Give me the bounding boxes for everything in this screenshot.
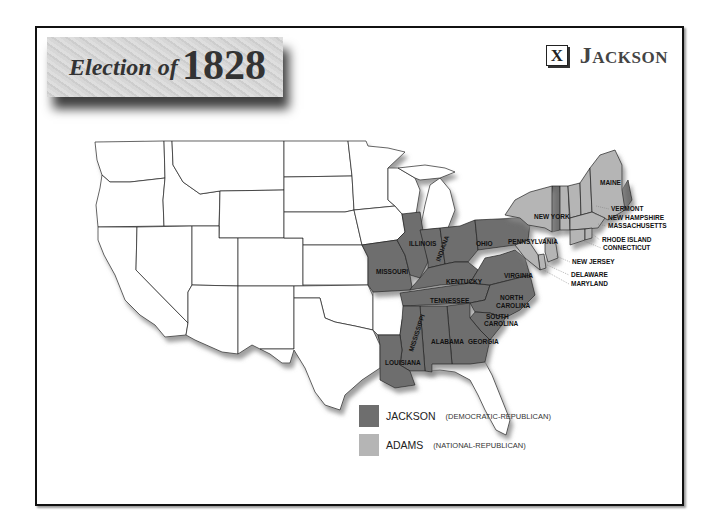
label-new-hampshire: NEW HAMPSHIRE [608, 214, 665, 221]
label-delaware: DELAWARE [571, 271, 609, 278]
legend: JACKSON (DEMOCRATIC-REPUBLICAN) ADAMS (N… [359, 405, 551, 463]
legend-item-adams: ADAMS (NATIONAL-REPUBLICAN) [359, 434, 551, 456]
legend-name: ADAMS [386, 439, 423, 451]
label-north-carolina-2: CAROLINA [496, 302, 531, 309]
legend-party: (DEMOCRATIC-REPUBLICAN) [446, 412, 551, 421]
label-connecticut: CONNECTICUT [603, 244, 650, 251]
label-south-carolina-2: CAROLINA [484, 320, 519, 327]
label-louisiana: LOUISIANA [385, 359, 421, 366]
label-alabama: ALABAMA [431, 338, 464, 345]
label-new-york: NEW YORK [534, 213, 570, 220]
label-new-jersey: NEW JERSEY [572, 258, 615, 265]
label-south-carolina-1: SOUTH [486, 313, 509, 320]
label-missouri: MISSOURI [376, 268, 408, 275]
label-virginia: VIRGINIA [504, 272, 533, 279]
legend-party: (NATIONAL-REPUBLICAN) [433, 441, 525, 450]
label-maryland: MARYLAND [571, 280, 608, 287]
label-georgia: GEORGIA [468, 338, 499, 345]
legend-swatch-adams [359, 434, 379, 456]
label-maine: MAINE [600, 179, 622, 186]
label-pennsylvania: PENNSYLVANIA [508, 238, 558, 245]
adams-states [505, 150, 625, 270]
legend-item-jackson: JACKSON (DEMOCRATIC-REPUBLICAN) [359, 405, 551, 427]
label-north-carolina-1: NORTH [500, 294, 523, 301]
label-rhode-island: RHODE ISLAND [602, 236, 652, 243]
label-illinois: ILLINOIS [409, 240, 437, 247]
legend-name: JACKSON [386, 410, 436, 422]
label-tennessee: TENNESSEE [430, 297, 470, 304]
legend-swatch-jackson [359, 405, 379, 427]
label-ohio: OHIO [476, 240, 493, 247]
label-vermont: VERMONT [611, 205, 644, 212]
label-kentucky: KENTUCKY [446, 278, 483, 285]
label-massachusetts: MASSACHUSETTS [608, 222, 667, 229]
